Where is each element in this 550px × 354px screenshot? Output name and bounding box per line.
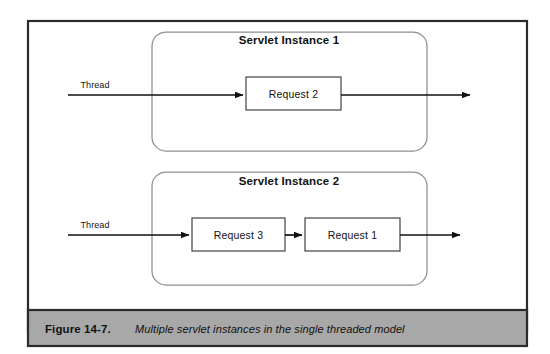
servlet-instance-2-title: Servlet Instance 2 xyxy=(239,175,340,187)
request-box-request-1-label: Request 1 xyxy=(328,229,378,241)
thread-label-2: Thread xyxy=(80,220,109,230)
request-box-request-3-label: Request 3 xyxy=(214,229,264,241)
figure-caption: Multiple servlet instances in the single… xyxy=(135,323,405,335)
figure-number: Figure 14-7. xyxy=(45,323,111,335)
request-box-request-2-label: Request 2 xyxy=(269,88,319,100)
servlet-instance-1-title: Servlet Instance 1 xyxy=(239,34,340,46)
thread-label-1: Thread xyxy=(80,80,109,90)
figure-canvas: Servlet Instance 1 Request 2 Servlet Ins… xyxy=(0,0,550,354)
figure-root: Servlet Instance 1 Request 2 Servlet Ins… xyxy=(0,0,550,354)
